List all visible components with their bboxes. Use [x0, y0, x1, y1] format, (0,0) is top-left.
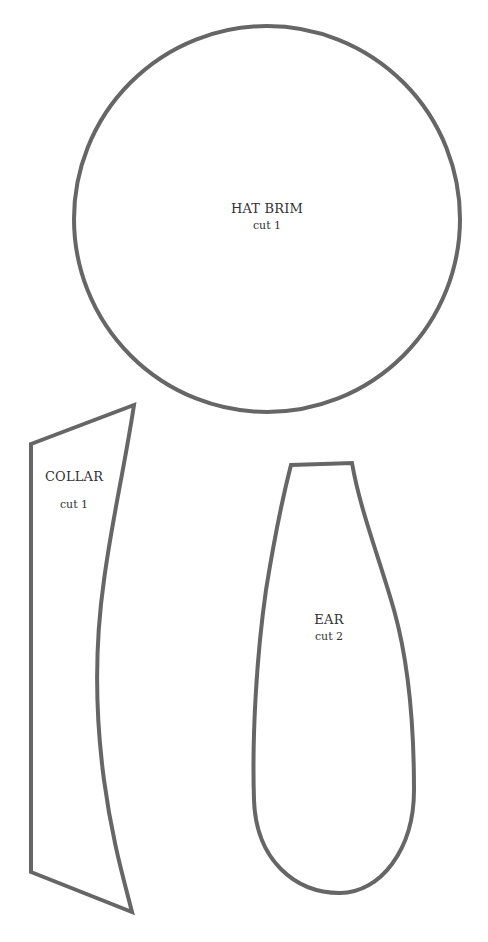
ear-outline	[254, 463, 415, 893]
hat-brim-label: HAT BRIM cut 1	[231, 201, 303, 232]
ear-cut: cut 2	[314, 630, 343, 643]
ear-name: EAR	[314, 612, 343, 627]
ear-label: EAR cut 2	[314, 612, 343, 643]
hat-brim-cut: cut 1	[231, 219, 303, 232]
collar-label: COLLAR cut 1	[45, 469, 103, 511]
hat-brim-name: HAT BRIM	[231, 201, 303, 216]
collar-cut: cut 1	[45, 498, 103, 511]
collar-name: COLLAR	[45, 469, 103, 484]
